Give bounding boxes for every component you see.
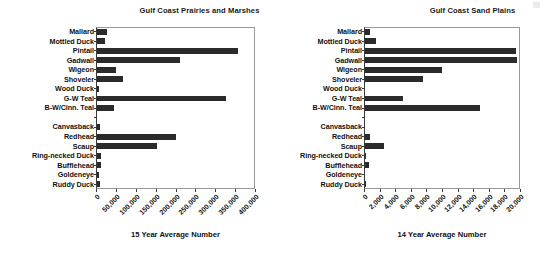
category-label: Bufflehead xyxy=(325,162,362,169)
category-label: Redhead xyxy=(64,133,94,140)
x-axis-label: 15 Year Average Number xyxy=(36,230,315,239)
y-tick-mark xyxy=(94,88,96,89)
y-tick-mark xyxy=(362,117,364,118)
y-tick-mark xyxy=(94,79,96,80)
y-tick-mark xyxy=(362,136,364,137)
category-label: Ring-necked Duck xyxy=(32,152,94,159)
x-tick-mark xyxy=(442,189,443,192)
category-axis-labels: MallardMottled DuckPintailGadwallWigeonS… xyxy=(286,27,362,189)
category-label: Goldeneye xyxy=(58,171,94,178)
bar xyxy=(97,96,226,102)
category-label: Gadwall xyxy=(335,57,362,64)
y-tick-mark xyxy=(94,60,96,61)
bar xyxy=(97,86,99,92)
chart-title-right: Gulf Coast Sand Plains xyxy=(275,6,550,15)
bar xyxy=(365,29,370,35)
y-tick-mark xyxy=(94,127,96,128)
category-label: G-W Teal xyxy=(332,95,362,102)
category-label: G-W Teal xyxy=(64,95,94,102)
x-tick-mark xyxy=(504,189,505,192)
bar xyxy=(365,96,403,102)
category-label: Gadwall xyxy=(67,57,94,64)
chart-panel-sand-plains: Gulf Coast Sand Plains MallardMottled Du… xyxy=(275,0,550,253)
bar xyxy=(365,153,366,159)
category-label: Wood Duck xyxy=(323,85,362,92)
y-tick-mark xyxy=(94,50,96,51)
y-tick-mark xyxy=(94,146,96,147)
x-tick-mark xyxy=(195,189,196,192)
bar xyxy=(97,48,238,54)
bar xyxy=(97,162,101,168)
y-tick-mark xyxy=(362,127,364,128)
x-tick-mark xyxy=(235,189,236,192)
x-tick-mark xyxy=(489,189,490,192)
category-label: Redhead xyxy=(332,133,362,140)
category-label: Ruddy Duck xyxy=(53,181,94,188)
x-tick-mark xyxy=(176,189,177,192)
bar xyxy=(97,172,99,178)
bar xyxy=(365,143,384,149)
y-tick-mark xyxy=(94,155,96,156)
bar xyxy=(365,105,480,111)
category-label: Canvasback xyxy=(53,123,94,130)
category-label: Mottled Duck xyxy=(49,38,94,45)
y-tick-mark xyxy=(94,117,96,118)
y-tick-mark xyxy=(94,31,96,32)
y-tick-mark xyxy=(94,174,96,175)
y-tick-mark xyxy=(362,108,364,109)
bar xyxy=(97,105,114,111)
x-tick-mark xyxy=(395,189,396,192)
y-tick-mark xyxy=(362,146,364,147)
category-label: Wood Duck xyxy=(55,85,94,92)
y-tick-mark xyxy=(362,31,364,32)
y-tick-mark xyxy=(94,41,96,42)
category-label: Pintail xyxy=(73,47,94,54)
category-label: Pintail xyxy=(341,47,362,54)
x-tick-mark xyxy=(364,189,365,192)
y-tick-mark xyxy=(362,98,364,99)
category-label: Shoveler xyxy=(64,76,94,83)
y-tick-mark xyxy=(94,69,96,70)
x-tick-mark xyxy=(411,189,412,192)
y-tick-mark xyxy=(362,60,364,61)
category-label: Ring-necked Duck xyxy=(300,152,362,159)
x-tick-mark xyxy=(255,189,256,192)
chart-panel-prairies-and-marshes: Gulf Coast Prairies and Marshes MallardM… xyxy=(0,0,275,253)
bar xyxy=(97,29,107,35)
y-tick-mark xyxy=(362,88,364,89)
category-axis-labels: MallardMottled DuckPintailGadwallWigeonS… xyxy=(18,27,94,189)
y-tick-mark xyxy=(94,136,96,137)
bar xyxy=(97,76,123,82)
bar xyxy=(365,134,370,140)
y-tick-mark xyxy=(94,108,96,109)
bar xyxy=(97,153,101,159)
bar xyxy=(97,38,105,44)
bar xyxy=(365,57,517,63)
x-tick-mark xyxy=(96,189,97,192)
y-tick-mark xyxy=(362,50,364,51)
category-label: B-W/Cinn. Teal xyxy=(45,104,94,111)
bar xyxy=(365,76,423,82)
category-label: Scaup xyxy=(73,143,94,150)
bar xyxy=(97,134,176,140)
x-tick-mark xyxy=(380,189,381,192)
y-tick-mark xyxy=(362,69,364,70)
y-tick-mark xyxy=(362,174,364,175)
bar xyxy=(97,143,157,149)
y-tick-mark xyxy=(362,165,364,166)
category-label: Mallard xyxy=(337,28,362,35)
bar xyxy=(365,67,442,73)
bar xyxy=(97,67,116,73)
category-label: Ruddy Duck xyxy=(321,181,362,188)
y-tick-mark xyxy=(94,98,96,99)
scan-artifact xyxy=(533,2,540,8)
y-tick-mark xyxy=(362,79,364,80)
x-tick-mark xyxy=(520,189,521,192)
bar xyxy=(97,57,180,63)
x-tick-mark xyxy=(458,189,459,192)
category-label: Scaup xyxy=(341,143,362,150)
bar xyxy=(365,48,516,54)
y-tick-mark xyxy=(94,184,96,185)
y-tick-mark xyxy=(362,41,364,42)
x-tick-mark xyxy=(426,189,427,192)
